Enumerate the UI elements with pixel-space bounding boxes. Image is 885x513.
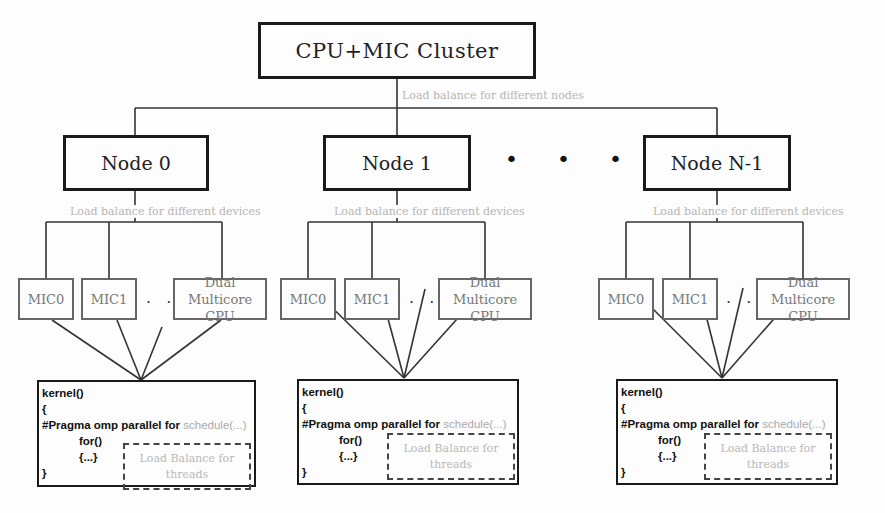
node-1-device-cpu: Dual Multicore CPU [438,278,532,320]
node-1-device-balance-annotation: Load balance for different devices [332,205,527,218]
node-1-device-mic1: MIC1 [344,278,400,320]
cluster-load-balance-annotation: Load balance for different nodes [400,89,586,102]
node-0-device-mic1: MIC1 [81,278,137,320]
node-1-thread-load-balance: Load Balance for threads [387,433,515,480]
cluster-label: CPU+MIC Cluster [295,39,498,63]
node-0-device-balance-annotation: Load balance for different devices [68,205,263,218]
cluster-architecture-diagram: CPU+MIC Cluster Load balance for differe… [0,0,885,513]
node-n-1-device-mic0: MIC0 [598,278,654,320]
node-n-1-device-cpu: Dual Multicore CPU [756,278,850,320]
node-n-1-kernel-box: kernel() { #Pragma omp parallel for sche… [616,379,838,485]
node-n-1-box: Node N-1 [643,135,791,191]
node-ellipsis: • • • [505,147,638,172]
node-n-1-device-mic1: MIC1 [662,278,718,320]
node-1-label: Node 1 [362,152,432,174]
node-n-1-label: Node N-1 [671,152,764,174]
node-0-device-cpu: Dual Multicore CPU [173,278,267,320]
node-1-device-mic0: MIC0 [280,278,336,320]
node-1-kernel-box: kernel() { #Pragma omp parallel for sche… [297,379,519,485]
node-0-kernel-box: kernel() { #Pragma omp parallel for sche… [37,380,256,487]
node-1-box: Node 1 [323,135,471,191]
node-0-device-mic0: MIC0 [18,278,74,320]
node-0-thread-load-balance: Load Balance for threads [123,443,251,490]
cluster-box: CPU+MIC Cluster [258,22,536,79]
node-0-box: Node 0 [63,135,209,191]
node-0-label: Node 0 [101,152,171,174]
node-n-1-device-balance-annotation: Load balance for different devices [651,205,846,218]
node-n-1-thread-load-balance: Load Balance for threads [704,433,832,480]
